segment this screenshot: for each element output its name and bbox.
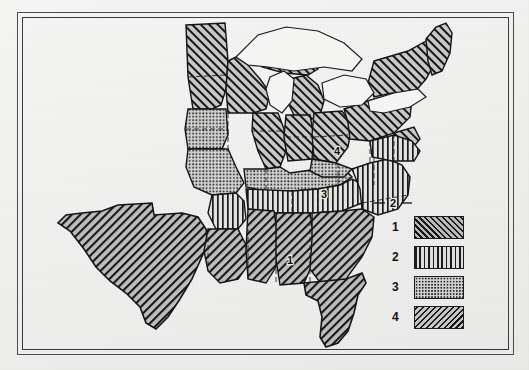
legend-row: 2 xyxy=(392,242,484,272)
map-label-2: 2 xyxy=(390,197,396,209)
legend-label-2: 2 xyxy=(392,250,414,264)
legend-row: 1 xyxy=(392,212,484,242)
map-label-1: 1 xyxy=(287,254,293,266)
map-label-4: 4 xyxy=(334,145,341,157)
map-legend: 1 2 3 4 xyxy=(392,212,484,344)
legend-label-3: 3 xyxy=(392,280,414,294)
legend-label-4: 4 xyxy=(392,310,414,324)
legend-row: 3 xyxy=(392,272,484,302)
legend-label-1: 1 xyxy=(392,220,414,234)
legend-swatch-4 xyxy=(414,306,464,329)
legend-row: 4 xyxy=(392,302,484,332)
legend-swatch-1 xyxy=(414,216,464,239)
map-label-3: 3 xyxy=(321,188,327,200)
legend-swatch-2 xyxy=(414,246,464,269)
legend-swatch-3 xyxy=(414,276,464,299)
